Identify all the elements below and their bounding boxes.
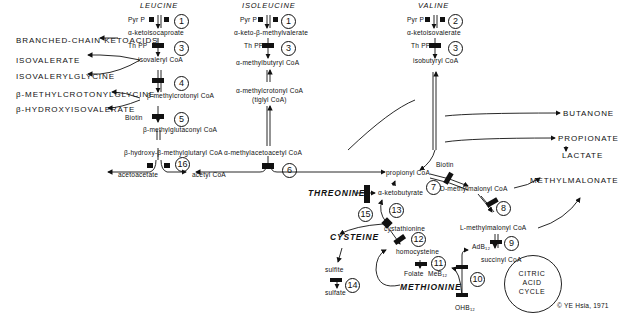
step-9: 9 — [504, 236, 519, 251]
step-16: 16 — [175, 157, 190, 172]
step-3-isoleucine: 3 — [281, 41, 296, 56]
butanone: BUTANONE — [563, 110, 614, 118]
alpha-methylcrotonyl-coa: α-methylcrotonyl CoA — [236, 88, 303, 95]
meb12: MeB₁₂ — [428, 271, 447, 278]
beta-methylglutaconyl-coa: β-methylglutaconyl CoA — [143, 127, 217, 134]
step-3-leucine: 3 — [174, 41, 189, 56]
step-5: 5 — [174, 112, 189, 127]
folate: Folate — [404, 271, 424, 278]
methylmalonate: METHYLMALONATE — [530, 177, 618, 185]
isoleucine-header: ISOLEUCINE — [242, 2, 295, 10]
step-1-leucine: 1 — [174, 14, 189, 29]
step-1-isoleucine: 1 — [281, 14, 296, 29]
citric-acid-cycle-label: CITRIC ACID CYCLE — [504, 269, 560, 296]
isovalerate: ISOVALERATE — [16, 57, 80, 65]
acetyl-coa: acetyl CoA — [192, 172, 226, 179]
lactate: LACTATE — [562, 152, 603, 160]
biotin-cofactor-leucine: Biotin — [125, 115, 143, 122]
branched-chain-ketoacids: BRANCHED-CHAIN KETOACIDS — [16, 37, 158, 45]
tiglyl-coa: (tiglyl CoA) — [252, 97, 287, 104]
homocysteine: homocysteine — [396, 249, 439, 256]
alpha-ketobutyrate: α-ketobutyrate — [378, 190, 423, 197]
adb12: AdB₁₂ — [472, 244, 490, 251]
step-8: 8 — [496, 201, 511, 216]
step-10: 10 — [470, 272, 485, 287]
isoleucine-cofactor-thpp: Th PP — [244, 43, 263, 50]
alpha-ketoisovalerate: α-ketoisovalerate — [407, 30, 461, 37]
step-11: 11 — [431, 256, 446, 271]
valine-cofactor-pyrp: Pyr P — [407, 17, 424, 24]
propionate: PROPIONATE — [558, 135, 619, 143]
alpha-methylbutyryl-coa: α-methylbutyryl CoA — [236, 60, 299, 67]
methionine: METHIONINE — [400, 283, 461, 292]
biotin-cofactor-propionyl: Biotin — [436, 162, 454, 169]
isovaleryl-coa: isovaleryl CoA — [138, 57, 183, 64]
isoleucine-cofactor-pyrp: Pyr P — [240, 17, 257, 24]
alpha-methylacetoacetyl-coa: α-methylacetoacetyl CoA — [224, 150, 302, 157]
propionyl-coa: propionyl CoA — [386, 170, 430, 177]
step-13: 13 — [389, 203, 404, 218]
sulfite: sulfite — [325, 267, 344, 274]
step-2: 2 — [448, 14, 463, 29]
leucine-header: LEUCINE — [140, 2, 178, 10]
d-methylmalonyl-coa: D-methylmalonyl CoA — [440, 186, 508, 193]
hmg-coa: β-hydroxy-β-methylglutaryl CoA — [124, 150, 223, 157]
alpha-keto-beta-methylvalerate: α-keto-β-methylvalerate — [234, 30, 308, 37]
leucine-cofactor-pyrp: Pyr P — [128, 17, 145, 24]
cysteine: CYSTEINE — [330, 233, 379, 242]
beta-methylcrotonyl-coa: β-methylcrotonyl CoA — [147, 93, 214, 100]
beta-hydroxyisovalerate: β-HYDROXYISOVALERATE — [16, 106, 135, 114]
step-6: 6 — [282, 163, 297, 178]
copyright: © YE Hsia, 1971 — [557, 303, 609, 310]
isobutyryl-coa: isobutyryl CoA — [413, 58, 458, 65]
sulfate: sulfate — [325, 290, 346, 297]
valine-cofactor-thpp: Th PP — [411, 43, 430, 50]
isovalerylglycine: ISOVALERYLGLYCINE — [16, 73, 115, 81]
step-4: 4 — [174, 76, 189, 91]
valine-header: VALINE — [418, 2, 449, 10]
ohb12: OHB₁₂ — [455, 305, 475, 312]
step-3-valine: 3 — [448, 41, 463, 56]
beta-methylcrotonylglycine: β-METHYLCROTONYLGLYCINE — [16, 91, 155, 99]
threonine: THREONINE — [308, 189, 365, 198]
acetoacetate: acetoacetate — [118, 172, 158, 179]
step-14: 14 — [345, 278, 360, 293]
step-7: 7 — [426, 180, 441, 195]
step-15: 15 — [358, 207, 373, 222]
l-methylmalonyl-coa: L-methylmalonyl CoA — [460, 225, 526, 232]
step-12: 12 — [411, 232, 426, 247]
